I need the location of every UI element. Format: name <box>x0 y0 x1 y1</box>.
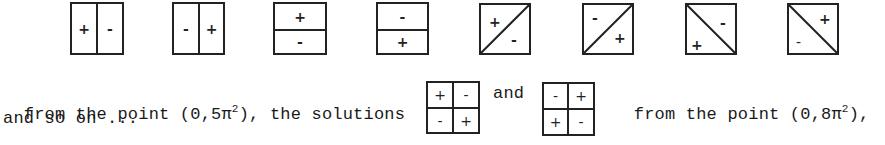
sign-bottom-right: - <box>569 110 593 134</box>
sign-lower-right: + <box>614 31 626 45</box>
sign-upper-left: - <box>592 11 598 25</box>
sign-right: - <box>98 4 122 53</box>
sign-bottom: - <box>275 31 325 53</box>
text-line-2: and so on ... <box>3 109 138 128</box>
sign-top-left: - <box>544 84 567 108</box>
sign-pattern-box-8: + - <box>787 3 839 55</box>
sign-pattern-box-3: + - <box>273 2 327 55</box>
sign-bottom-left: + <box>544 110 567 134</box>
sign-top: + <box>275 4 325 29</box>
sign-top: - <box>378 4 427 29</box>
sign-top-left: + <box>428 83 452 107</box>
sign-upper-left: + <box>489 15 501 29</box>
sign-lower-left: + <box>691 38 703 52</box>
quad-sign-box-2: - + + - <box>542 82 595 136</box>
text-comma: ), <box>849 105 870 124</box>
text-the-solutions: ), the solutions <box>239 105 405 124</box>
sign-pattern-box-1: + - <box>70 2 124 55</box>
sign-pattern-box-5: + - <box>479 3 531 55</box>
sign-left: - <box>174 4 198 53</box>
sign-pattern-box-4: - + <box>376 2 429 55</box>
sign-lower-left: - <box>796 35 801 49</box>
sign-bottom-left: - <box>428 109 452 132</box>
exponent: 2 <box>842 103 849 115</box>
sign-upper-right: + <box>819 12 831 26</box>
sign-top-right: + <box>569 84 593 108</box>
sign-right: + <box>200 4 223 53</box>
sign-top-right: - <box>454 83 478 107</box>
text-and: and <box>493 84 524 103</box>
exponent: 2 <box>232 103 239 115</box>
sign-bottom-right: + <box>454 109 478 132</box>
sign-pattern-box-2: - + <box>172 2 225 55</box>
quad-sign-box-1: + - - + <box>426 81 480 134</box>
text-line-1b: from the point (0,8π2), <box>613 84 869 124</box>
sign-lower-right: - <box>511 33 517 47</box>
sign-pattern-box-6: - + <box>582 3 634 55</box>
sign-bottom: + <box>378 31 427 53</box>
sign-left: + <box>72 4 96 53</box>
sign-upper-right: - <box>720 16 726 30</box>
text-from-point-8pi: from the point (0,8π <box>634 105 842 124</box>
sign-pattern-box-7: - + <box>685 3 737 55</box>
